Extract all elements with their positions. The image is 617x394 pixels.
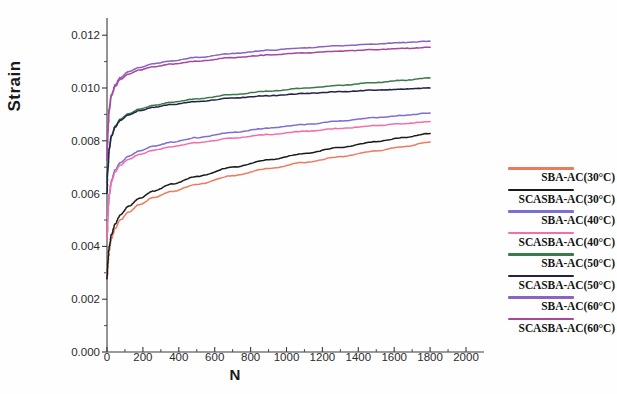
legend: SBA-AC(30°C)SCASBA-AC(30°C)SBA-AC(40°C)S… [470, 166, 617, 338]
legend-item[interactable]: SCASBA-AC(40°C) [470, 231, 617, 253]
legend-label: SBA-AC(60°C) [470, 300, 615, 312]
legend-label: SCASBA-AC(50°C) [470, 279, 615, 291]
axes [102, 18, 484, 352]
legend-color-swatch [508, 167, 574, 170]
legend-color-swatch [508, 296, 574, 299]
legend-label: SCASBA-AC(40°C) [470, 236, 615, 248]
legend-item[interactable]: SBA-AC(50°C) [470, 252, 617, 274]
legend-label: SBA-AC(40°C) [470, 214, 615, 226]
legend-item[interactable]: SBA-AC(30°C) [470, 166, 617, 188]
legend-item[interactable]: SCASBA-AC(60°C) [470, 317, 617, 339]
curve-sba-ac-40-c [107, 113, 430, 238]
legend-item[interactable]: SBA-AC(60°C) [470, 295, 617, 317]
legend-color-swatch [508, 318, 574, 321]
legend-item[interactable]: SCASBA-AC(50°C) [470, 274, 617, 296]
legend-color-swatch [508, 210, 574, 213]
creep-strain-chart: Strain N 0.0000.0020.0040.0060.0080.0100… [0, 0, 617, 394]
legend-label: SCASBA-AC(60°C) [470, 322, 615, 334]
curve-sba-ac-30-c [107, 142, 430, 280]
legend-color-swatch [508, 189, 574, 192]
curve-scasba-ac-30-c [107, 133, 430, 278]
legend-item[interactable]: SBA-AC(40°C) [470, 209, 617, 231]
legend-label: SCASBA-AC(30°C) [470, 193, 615, 205]
legend-label: SBA-AC(50°C) [470, 257, 615, 269]
legend-label: SBA-AC(30°C) [470, 171, 615, 183]
legend-color-swatch [508, 232, 574, 235]
curve-scasba-ac-40-c [107, 122, 430, 239]
data-curves [107, 41, 430, 280]
legend-color-swatch [508, 275, 574, 278]
legend-color-swatch [508, 253, 574, 256]
legend-item[interactable]: SCASBA-AC(30°C) [470, 188, 617, 210]
